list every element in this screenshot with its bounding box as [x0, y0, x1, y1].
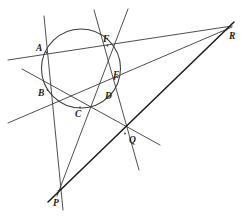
point-label-B: B [38, 89, 44, 99]
point-marker-R [226, 29, 228, 31]
point-label-R: R [229, 32, 235, 42]
point-label-C: C [75, 110, 81, 120]
line-DE-to-P [57, 9, 128, 196]
line-AB-to-P [44, 16, 63, 210]
point-marker-Q [124, 133, 126, 135]
point-label-F: F [103, 35, 109, 45]
pascal-theorem-figure: ABCDEFPQR [0, 0, 244, 216]
point-label-E: E [113, 71, 119, 81]
point-marker-A [46, 52, 48, 54]
point-marker-F [107, 45, 109, 47]
point-label-Q: Q [129, 136, 136, 146]
point-label-D: D [105, 92, 112, 102]
point-label-P: P [53, 199, 59, 209]
diagram-canvas [0, 0, 244, 216]
point-marker-P [58, 190, 60, 192]
point-marker-B [47, 89, 49, 91]
point-label-A: A [36, 44, 42, 54]
